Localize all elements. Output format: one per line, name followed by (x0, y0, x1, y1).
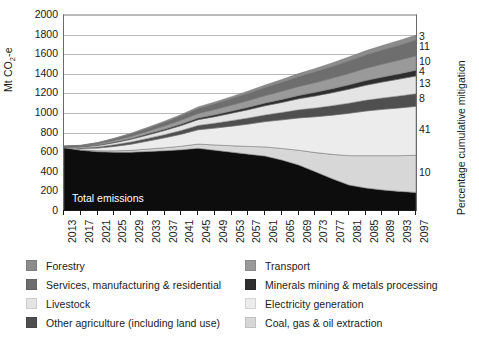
x-tick-label: 2085 (369, 220, 380, 243)
legend-swatch-icon (26, 317, 37, 328)
x-tick-mark (348, 211, 349, 215)
x-tick-mark (314, 211, 315, 215)
right-axis-percentage-label: 11 (419, 41, 430, 52)
x-tick-mark (298, 211, 299, 215)
x-tick-mark (97, 211, 98, 215)
x-tick-label: 2097 (419, 220, 430, 243)
legend-label: Transport (265, 260, 310, 272)
figure-chart: Mt CO2-e Percentage cumulative mitigatio… (0, 0, 479, 338)
legend-label: Coal, gas & oil extraction (265, 317, 382, 329)
right-axis-percentage-label: 13 (419, 78, 431, 89)
x-tick-label: 2057 (251, 220, 262, 243)
legend-item[interactable]: Transport (245, 256, 475, 275)
legend-column-left: ForestryServices, manufacturing & reside… (26, 256, 241, 332)
x-tick-label: 2053 (235, 220, 246, 243)
y-tick-label: 200 (24, 185, 58, 196)
x-tick-mark (264, 211, 265, 215)
y-tick-label: 0 (24, 205, 58, 216)
x-tick-mark (180, 211, 181, 215)
legend-item[interactable]: Services, manufacturing & residential (26, 275, 241, 294)
x-tick-mark (415, 211, 416, 215)
x-tick-label: 2025 (117, 220, 128, 243)
x-tick-mark (247, 211, 248, 215)
x-tick-mark (331, 211, 332, 215)
x-tick-mark (63, 211, 64, 215)
legend-swatch-icon (245, 260, 256, 271)
legend-swatch-icon (26, 279, 37, 290)
annotation-total-emissions: Total emissions (72, 192, 144, 204)
chart-area: Mt CO2-e Percentage cumulative mitigatio… (0, 0, 479, 252)
x-tick-mark (147, 211, 148, 215)
x-tick-mark (113, 211, 114, 215)
y-tick-label: 1600 (24, 48, 58, 59)
plot-canvas (64, 15, 416, 211)
legend-label: Forestry (46, 260, 85, 272)
x-tick-label: 2037 (168, 220, 179, 243)
right-axis-percentage-label: 10 (419, 167, 431, 178)
x-tick-mark (281, 211, 282, 215)
y-tick-label: 600 (24, 146, 58, 157)
stacked-area-series-group (64, 15, 416, 211)
x-tick-mark (164, 211, 165, 215)
legend-swatch-icon (26, 298, 37, 309)
right-axis-percentage-label: 4 (419, 66, 425, 77)
x-tick-label: 2077 (335, 220, 346, 243)
y-tick-label: 800 (24, 127, 58, 138)
legend-label: Services, manufacturing & residential (46, 279, 221, 291)
legend-item[interactable]: Forestry (26, 256, 241, 275)
x-tick-mark (214, 211, 215, 215)
x-tick-mark (398, 211, 399, 215)
x-tick-label: 2049 (218, 220, 229, 243)
legend-item[interactable]: Livestock (26, 294, 241, 313)
x-tick-label: 2089 (385, 220, 396, 243)
x-tick-label: 2033 (151, 220, 162, 243)
x-tick-label: 2093 (402, 220, 413, 243)
y-axis-ticks-right: 3111041384110 (419, 0, 449, 252)
legend: ForestryServices, manufacturing & reside… (0, 256, 479, 338)
y-axis-ticks-left: 0200400600800100012001400160018002000 (18, 0, 58, 252)
legend-item[interactable]: Minerals mining & metals processing (245, 275, 475, 294)
y-tick-label: 1000 (24, 107, 58, 118)
x-tick-mark (381, 211, 382, 215)
legend-label: Other agriculture (including land use) (46, 317, 220, 329)
right-axis-percentage-label: 8 (419, 93, 425, 104)
right-axis-percentage-label: 41 (419, 124, 431, 135)
legend-item[interactable]: Coal, gas & oil extraction (245, 313, 475, 332)
y-axis-title-left: Mt CO2-e (2, 76, 17, 92)
x-tick-label: 2045 (201, 220, 212, 243)
legend-label: Minerals mining & metals processing (265, 279, 438, 291)
x-tick-label: 2073 (318, 220, 329, 243)
x-tick-label: 2041 (184, 220, 195, 243)
y-tick-label: 1400 (24, 68, 58, 79)
x-tick-mark (130, 211, 131, 215)
legend-item[interactable]: Electricity generation (245, 294, 475, 313)
legend-item[interactable]: Other agriculture (including land use) (26, 313, 241, 332)
plot-area (63, 14, 417, 211)
legend-label: Electricity generation (265, 298, 364, 310)
x-axis-line (63, 210, 416, 211)
x-tick-label: 2013 (67, 220, 78, 243)
x-tick-label: 2021 (101, 220, 112, 243)
legend-label: Livestock (46, 298, 90, 310)
x-tick-label: 2029 (134, 220, 145, 243)
y-tick-label: 2000 (24, 9, 58, 20)
legend-swatch-icon (245, 279, 256, 290)
y-tick-label: 1200 (24, 87, 58, 98)
x-tick-label: 2017 (84, 220, 95, 243)
legend-swatch-icon (245, 317, 256, 328)
y-axis-title-right: Percentage cumulative mitigation (455, 60, 467, 215)
x-tick-mark (231, 211, 232, 215)
x-tick-label: 2081 (352, 220, 363, 243)
x-tick-mark (80, 211, 81, 215)
x-tick-label: 2065 (285, 220, 296, 243)
legend-column-right: TransportMinerals mining & metals proces… (245, 256, 475, 332)
legend-swatch-icon (245, 298, 256, 309)
x-tick-label: 2061 (268, 220, 279, 243)
x-tick-mark (197, 211, 198, 215)
y-tick-label: 1800 (24, 29, 58, 40)
x-tick-mark (365, 211, 366, 215)
x-tick-label: 2069 (302, 220, 313, 243)
legend-swatch-icon (26, 260, 37, 271)
y-tick-label: 400 (24, 166, 58, 177)
